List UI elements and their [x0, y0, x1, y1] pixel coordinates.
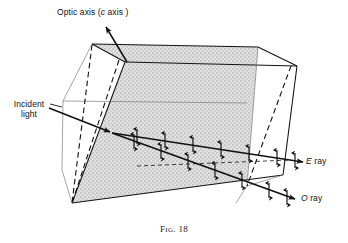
- incident-light-line1: Incident: [14, 99, 45, 109]
- figure-container: Optic axis (c axis ) Incidentlight E ray…: [0, 0, 348, 243]
- o-ray-label: O ray: [301, 193, 322, 203]
- edge-right-bottom-joint: [236, 186, 247, 203]
- calcite-crystal-diagram: [0, 0, 348, 243]
- optic-axis-label: Optic axis (c axis ): [57, 7, 128, 17]
- optic-axis-label-tail: axis ): [105, 7, 128, 17]
- optic-axis-label-main: Optic axis (: [57, 7, 101, 17]
- incident-light-label: Incidentlight: [5, 99, 53, 119]
- crystal-body: [62, 44, 297, 203]
- e-ray-label: E ray: [306, 156, 326, 166]
- e-ray-label-text: ray: [312, 156, 327, 166]
- o-ray-label-text: ray: [308, 193, 323, 203]
- o-ray-label-italic: O: [301, 193, 308, 203]
- incident-light-line2: light: [21, 109, 37, 119]
- caption-number: . 18: [173, 224, 188, 234]
- figure-caption: FIG. 18: [0, 224, 348, 234]
